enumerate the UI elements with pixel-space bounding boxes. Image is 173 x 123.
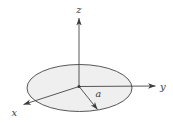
x-axis-label: x xyxy=(12,107,18,118)
figure-canvas: z y x a xyxy=(0,0,173,123)
y-axis xyxy=(79,86,156,87)
coordinate-diagram: z y x a xyxy=(0,0,173,123)
radius-label: a xyxy=(96,88,102,99)
origin-dot xyxy=(78,85,81,88)
y-axis-label: y xyxy=(159,81,166,92)
z-axis-label: z xyxy=(75,4,82,15)
disk xyxy=(27,65,132,112)
